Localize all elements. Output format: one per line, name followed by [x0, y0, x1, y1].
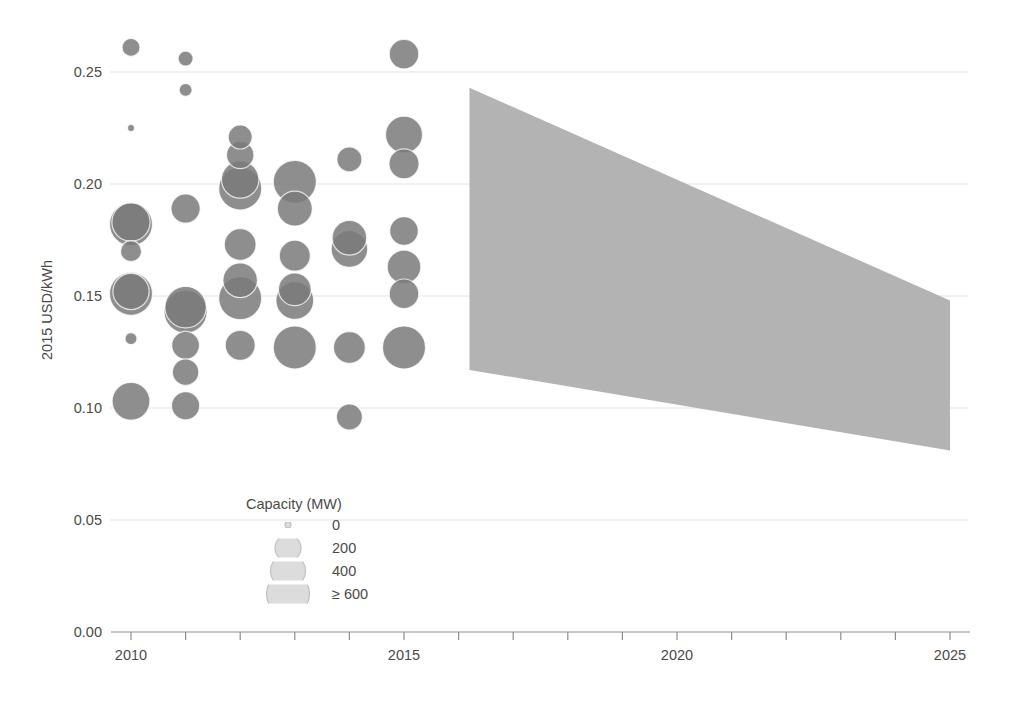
y-axis-tick-label: 0.10 — [74, 400, 102, 416]
bubble-point — [113, 273, 149, 309]
y-axis-tick-label: 0.00 — [74, 624, 102, 640]
bubble-point — [224, 229, 256, 261]
bubble-point — [273, 326, 316, 369]
y-axis-title: 2015 USD/kWh — [39, 260, 55, 360]
bubble-point — [171, 194, 200, 223]
bubble-point — [165, 287, 206, 328]
bubble-point — [125, 333, 137, 345]
x-axis-tick-label: 2015 — [388, 647, 420, 663]
bubble-points — [110, 38, 426, 430]
bubble-point — [122, 38, 140, 56]
legend-bubble — [285, 522, 291, 528]
x-axis-tick-label: 2010 — [115, 647, 147, 663]
bubble-point — [277, 191, 312, 226]
y-axis-tick-label: 0.25 — [74, 64, 102, 80]
y-axis-tick-label: 0.20 — [74, 176, 102, 192]
legend-title: Capacity (MW) — [246, 496, 342, 512]
bubble-point — [121, 241, 142, 262]
bubble-point — [332, 221, 367, 256]
bubble-point — [383, 326, 426, 369]
bubble-point — [386, 116, 423, 153]
x-axis-tick-label: 2025 — [934, 647, 966, 663]
bubble-point — [279, 240, 310, 271]
legend-label: 400 — [332, 563, 356, 579]
size-legend: Capacity (MW) 0200400≥ 600 — [246, 496, 368, 616]
legend-bubble — [271, 554, 306, 589]
bubble-point — [225, 330, 255, 360]
bubble-point — [337, 147, 362, 172]
bubble-chart-plot: 0.000.050.100.150.200.25 201020152020202… — [0, 0, 1024, 715]
projection-band — [470, 88, 951, 451]
bubble-point — [112, 203, 150, 241]
bubble-point — [172, 331, 200, 359]
bubble-point — [223, 263, 258, 298]
bubble-point — [278, 273, 311, 306]
bubble-point — [112, 382, 150, 420]
bubble-point — [389, 39, 419, 69]
bubble-point — [336, 404, 362, 430]
bubble-point — [179, 83, 192, 96]
y-axis-tick-label: 0.15 — [74, 288, 102, 304]
y-axis: 0.000.050.100.150.200.25 — [74, 64, 102, 640]
bubble-point — [389, 149, 419, 179]
y-axis-tick-label: 0.05 — [74, 512, 102, 528]
bubble-point — [389, 279, 419, 309]
legend-label: 200 — [332, 540, 356, 556]
legend-items: 0200400≥ 600 — [267, 517, 369, 616]
bubble-point — [178, 51, 193, 66]
bubble-point — [390, 217, 419, 246]
bubble-point — [172, 392, 200, 420]
projection-band-shape — [470, 88, 951, 451]
legend-bubble — [275, 535, 301, 561]
legend-label: ≥ 600 — [332, 586, 368, 602]
bubble-point — [172, 359, 198, 385]
bubble-point — [228, 125, 252, 149]
legend-label: 0 — [332, 517, 340, 533]
x-axis: 2010201520202025 — [111, 632, 970, 663]
bubble-point — [128, 125, 135, 132]
chart-container: 0.000.050.100.150.200.25 201020152020202… — [0, 0, 1024, 715]
x-axis-tick-label: 2020 — [661, 647, 693, 663]
bubble-point — [334, 332, 366, 364]
